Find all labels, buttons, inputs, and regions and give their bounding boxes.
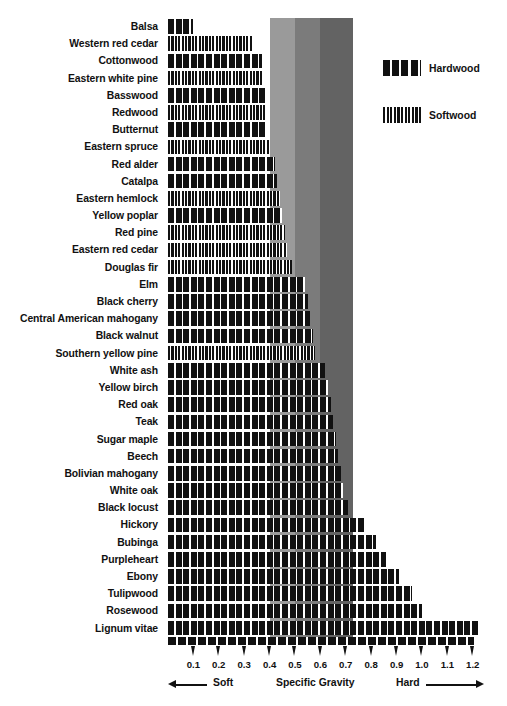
bar-row [168,345,488,362]
axis-tick-label: 0.6 [314,659,327,670]
axis-tick-label: 0.3 [238,659,251,670]
axis-tick-label: 0.5 [288,659,301,670]
bar [168,208,282,223]
axis-tick-label: 0.4 [263,659,276,670]
category-label: Sugar maple [0,431,163,448]
axis-tick-icon [369,646,373,656]
category-label: Black locust [0,499,163,516]
bar [168,363,325,378]
category-label: Black cherry [0,293,163,310]
bar [168,243,287,258]
bar [168,569,399,584]
category-label: Catalpa [0,173,163,190]
bar [168,415,333,430]
bar-row [168,327,488,344]
legend: Hardwood Softwood [383,60,503,154]
soft-label: Soft [213,677,233,688]
bar-row [168,259,488,276]
category-label: Hickory [0,516,163,533]
axis-tick-icon [419,646,423,656]
category-label: Eastern spruce [0,138,163,155]
legend-item-hardwood: Hardwood [383,60,503,76]
legend-item-softwood: Softwood [383,107,503,123]
axis-tick-label: 0.9 [390,659,403,670]
category-label: Teak [0,413,163,430]
category-label: Cottonwood [0,52,163,69]
bar [168,346,315,361]
bar-row [168,18,488,35]
axis-tick-label: 1.0 [415,659,428,670]
bar-row [168,207,488,224]
bar-row [168,224,488,241]
category-label: Rosewood [0,602,163,619]
bar-row [168,620,488,637]
category-label: Lignum vitae [0,620,163,637]
category-label: Yellow poplar [0,207,163,224]
bar [168,277,305,292]
category-label: Southern yellow pine [0,345,163,362]
bar-row [168,431,488,448]
category-label: White oak [0,482,163,499]
bar [168,140,270,155]
bar [168,586,412,601]
axis-tick-label: 0.8 [365,659,378,670]
bar [168,380,328,395]
bar-row [168,396,488,413]
bar [168,71,262,86]
category-label: Red alder [0,156,163,173]
bar-row [168,190,488,207]
axis-ticks [168,646,488,658]
hard-label: Hard [396,677,420,688]
bar [168,191,280,206]
bar-row [168,241,488,258]
hardwood-swatch-icon [383,60,421,76]
axis-tick-icon [242,646,246,656]
bar-row [168,516,488,533]
bar [168,449,338,464]
category-label: Eastern white pine [0,70,163,87]
category-label: Elm [0,276,163,293]
hard-arrow-line [426,684,478,686]
axis-tick-icon [267,646,271,656]
category-label: Red pine [0,224,163,241]
bar [168,604,422,619]
category-label: Ebony [0,568,163,585]
axis-tick-label: 1.2 [466,659,479,670]
bar [168,329,313,344]
bar-row [168,602,488,619]
bar-row [168,465,488,482]
category-label: White ash [0,362,163,379]
bar [168,54,262,69]
specific-gravity-chart: BalsaWestern red cedarCottonwoodEastern … [0,0,507,706]
bar-row [168,379,488,396]
axis-tick-icon [470,646,474,656]
category-label: Bolivian mahogany [0,465,163,482]
axis-tick-label: 0.7 [339,659,352,670]
bar-row [168,276,488,293]
bar-row [168,568,488,585]
axis-tick-icon [343,646,347,656]
axis-tick-icon [292,646,296,656]
category-label: Black walnut [0,327,163,344]
category-label: Yellow birch [0,379,163,396]
soft-arrow-line [175,684,207,686]
bar [168,500,348,515]
legend-label-hardwood: Hardwood [429,63,480,74]
category-label: Eastern hemlock [0,190,163,207]
legend-label-softwood: Softwood [429,110,476,121]
bar-row [168,156,488,173]
softwood-swatch-icon [383,107,421,123]
axis-dash-strip [168,637,474,645]
bar-row [168,173,488,190]
bar [168,535,376,550]
category-label: Bubinga [0,534,163,551]
category-label: Red oak [0,396,163,413]
bar [168,122,267,137]
bar [168,518,366,533]
bar [168,466,341,481]
bar-row [168,310,488,327]
bar [168,174,277,189]
bar [168,19,193,34]
bar [168,621,478,636]
category-label: Balsa [0,18,163,35]
